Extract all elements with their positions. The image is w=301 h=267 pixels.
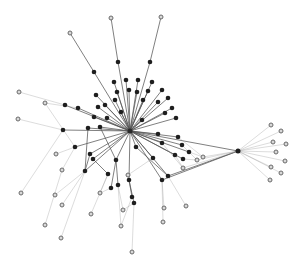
graph-node bbox=[134, 145, 139, 150]
leaf-node bbox=[60, 203, 64, 207]
graph-node bbox=[119, 110, 124, 115]
graph-node bbox=[156, 100, 161, 105]
graph-edge bbox=[129, 180, 134, 203]
leaf-node bbox=[60, 168, 64, 172]
graph-node bbox=[113, 98, 118, 103]
leaf-node bbox=[159, 15, 163, 19]
graph-edge bbox=[238, 151, 281, 173]
graph-node bbox=[160, 88, 165, 93]
graph-edge bbox=[61, 171, 85, 238]
leaf-node bbox=[162, 206, 166, 210]
graph-edge bbox=[132, 203, 134, 252]
graph-node bbox=[83, 169, 88, 174]
leaf-node bbox=[19, 191, 23, 195]
leaf-node bbox=[59, 236, 63, 240]
leaf-node bbox=[274, 150, 278, 154]
graph-node bbox=[127, 178, 132, 183]
graph-node bbox=[76, 106, 81, 111]
graph-edge bbox=[168, 176, 186, 206]
graph-node bbox=[187, 150, 192, 155]
graph-node bbox=[116, 60, 121, 65]
graph-node bbox=[180, 143, 185, 148]
graph-edge bbox=[93, 159, 108, 174]
leaf-node bbox=[89, 212, 93, 216]
graph-edge bbox=[128, 158, 153, 175]
graph-node bbox=[96, 105, 101, 110]
graph-node bbox=[176, 135, 181, 140]
graph-node bbox=[91, 157, 96, 162]
leaf-node bbox=[43, 101, 47, 105]
graph-edge bbox=[130, 131, 238, 151]
graph-edges bbox=[18, 17, 286, 252]
graph-node bbox=[116, 183, 121, 188]
graph-node bbox=[166, 96, 171, 101]
leaf-node bbox=[283, 159, 287, 163]
graph-node bbox=[127, 88, 132, 93]
graph-node bbox=[174, 116, 179, 121]
leaf-node bbox=[109, 16, 113, 20]
graph-node bbox=[160, 141, 165, 146]
leaf-node bbox=[16, 117, 20, 121]
graph-edge bbox=[19, 92, 65, 105]
leaf-node bbox=[43, 223, 47, 227]
graph-node bbox=[156, 132, 161, 137]
graph-node bbox=[160, 178, 165, 183]
graph-edge bbox=[136, 147, 168, 176]
graph-node bbox=[163, 111, 168, 116]
graph-node bbox=[86, 126, 91, 131]
graph-node bbox=[141, 98, 146, 103]
graph-node bbox=[94, 93, 99, 98]
graph-edge bbox=[238, 151, 276, 152]
graph-node bbox=[151, 156, 156, 161]
leaf-node bbox=[119, 224, 123, 228]
leaf-node bbox=[126, 173, 130, 177]
graph-edge bbox=[70, 33, 94, 72]
graph-node bbox=[105, 116, 110, 121]
leaf-node bbox=[98, 191, 102, 195]
leaf-node bbox=[68, 31, 72, 35]
leaf-node bbox=[279, 129, 283, 133]
graph-edge bbox=[129, 131, 130, 180]
graph-node bbox=[132, 201, 137, 206]
graph-edge bbox=[45, 103, 75, 147]
graph-node bbox=[124, 78, 129, 83]
leaf-node bbox=[121, 208, 125, 212]
graph-node bbox=[98, 125, 103, 130]
graph-node bbox=[106, 172, 111, 177]
graph-edge bbox=[111, 18, 118, 62]
leaf-node bbox=[269, 165, 273, 169]
graph-node bbox=[173, 153, 178, 158]
leaf-node bbox=[201, 155, 205, 159]
graph-node bbox=[73, 145, 78, 150]
graph-node bbox=[114, 158, 119, 163]
graph-node bbox=[146, 89, 151, 94]
graph-node bbox=[61, 128, 66, 133]
leaf-node bbox=[268, 178, 272, 182]
graph-node bbox=[109, 186, 114, 191]
leaf-node bbox=[284, 142, 288, 146]
graph-edge bbox=[116, 160, 118, 185]
graph-node bbox=[236, 149, 241, 154]
graph-edge bbox=[62, 147, 75, 170]
graph-node bbox=[92, 70, 97, 75]
graph-node bbox=[140, 118, 145, 123]
leaf-node bbox=[184, 204, 188, 208]
graph-node bbox=[130, 195, 135, 200]
graph-nodes bbox=[16, 15, 288, 254]
graph-edge bbox=[162, 143, 183, 168]
leaf-node bbox=[181, 166, 185, 170]
graph-node bbox=[112, 80, 117, 85]
graph-node bbox=[135, 90, 140, 95]
graph-edge bbox=[111, 160, 116, 188]
graph-node bbox=[63, 103, 68, 108]
graph-node bbox=[88, 152, 93, 157]
graph-node bbox=[148, 60, 153, 65]
leaf-node bbox=[17, 90, 21, 94]
hub-node bbox=[128, 129, 133, 134]
leaf-node bbox=[54, 152, 58, 156]
leaf-node bbox=[53, 193, 57, 197]
graph-node bbox=[115, 90, 120, 95]
graph-node bbox=[170, 106, 175, 111]
leaf-node bbox=[195, 158, 199, 162]
graph-edge bbox=[85, 131, 130, 171]
